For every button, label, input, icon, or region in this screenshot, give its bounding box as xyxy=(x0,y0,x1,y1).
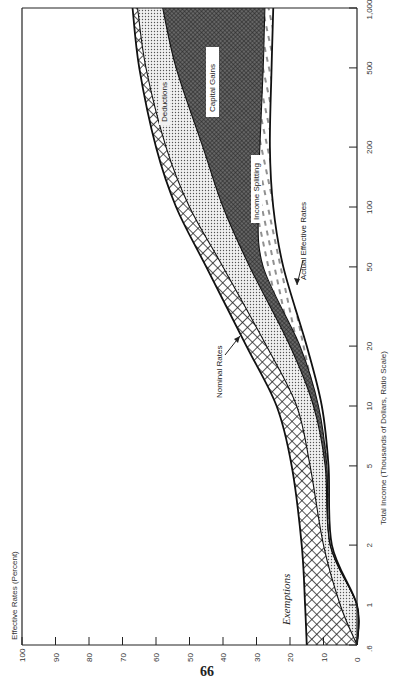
rate-tick-label: 60 xyxy=(152,653,161,662)
income-ticks: .61251020501002005001,000 xyxy=(349,0,374,652)
rate-tick-label: 0 xyxy=(353,657,362,662)
income-tick-label: 500 xyxy=(365,61,374,75)
svg-text:Nominal Rates: Nominal Rates xyxy=(215,346,224,398)
svg-text:Income Splitting: Income Splitting xyxy=(252,163,261,220)
page-number: 66 xyxy=(200,664,214,680)
income-tick-label: 20 xyxy=(365,341,374,350)
income-tick-label: 50 xyxy=(365,262,374,271)
svg-text:Exemptions: Exemptions xyxy=(280,574,292,626)
income-tick-label: 2 xyxy=(365,542,374,547)
label-capital-gains: Capital Gains xyxy=(206,47,219,117)
rate-tick-label: 50 xyxy=(186,653,195,662)
rate-tick-label: 80 xyxy=(85,653,94,662)
rate-tick-label: 90 xyxy=(52,653,61,662)
svg-text:Deductions: Deductions xyxy=(160,82,169,122)
income-tick-label: 10 xyxy=(365,401,374,410)
annotation-actual-effective-rates: Actual Effective Rates xyxy=(294,202,308,285)
rate-tick-label: 20 xyxy=(286,653,295,662)
svg-text:Capital Gains: Capital Gains xyxy=(208,64,217,112)
rate-tick-label: 10 xyxy=(320,653,329,662)
annotation-nominal-rates: Nominal Rates xyxy=(215,336,240,398)
x-axis-title: Total Income (Thousands of Dollars, Rati… xyxy=(379,351,388,525)
label-income-splitting: Income Splitting xyxy=(251,155,262,223)
label-deductions: Deductions xyxy=(159,80,170,125)
effective-rates-chart: 0102030405060708090100 .6125102050100200… xyxy=(0,0,393,685)
income-tick-label: 1,000 xyxy=(365,0,374,20)
income-tick-label: 5 xyxy=(365,463,374,468)
income-tick-label: 1 xyxy=(365,602,374,607)
rate-tick-label: 40 xyxy=(219,653,228,662)
income-tick-label: 200 xyxy=(365,140,374,154)
rate-tick-label: 100 xyxy=(18,648,27,662)
svg-text:Actual Effective Rates: Actual Effective Rates xyxy=(299,202,308,280)
income-tick-label: 100 xyxy=(365,200,374,214)
rate-tick-label: 30 xyxy=(253,653,262,662)
income-tick-label: .6 xyxy=(365,645,374,652)
y-axis-title: Effective Rates (Percent) xyxy=(10,551,19,640)
rate-tick-label: 70 xyxy=(119,653,128,662)
label-exemptions: Exemptions xyxy=(279,570,293,628)
